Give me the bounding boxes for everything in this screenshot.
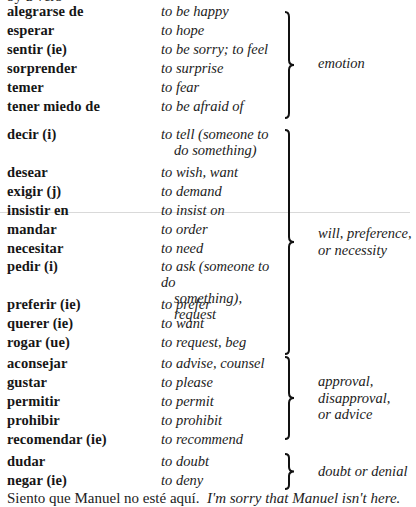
label-line: approval,	[318, 373, 390, 390]
label-line: will, preference,	[318, 225, 412, 242]
gloss-line: to ask (someone to do	[161, 258, 269, 290]
verb: desear	[7, 164, 48, 181]
table-row: desear to wish, want	[0, 164, 410, 183]
verb: gustar	[7, 374, 47, 391]
table-row: rogar (ue) to request, beg	[0, 334, 410, 353]
label-line: or necessity	[318, 242, 412, 259]
table-row: temer to fear	[0, 79, 410, 98]
gloss: to tell (someone todo something)	[161, 126, 286, 158]
group-label-will: will, preference, or necessity	[318, 225, 412, 258]
group-label-doubt: doubt or denial	[318, 463, 407, 480]
verb: esperar	[7, 22, 54, 39]
gloss: to prohibit	[161, 412, 286, 428]
gloss-continuation: do something)	[161, 142, 286, 158]
table-row: preferir (ie) to prefer	[0, 296, 410, 315]
table-row: insistir en to insist on	[0, 202, 410, 221]
gloss: to need	[161, 240, 286, 256]
table-row: alegrarse de to be happy	[0, 3, 410, 22]
verb: mandar	[7, 221, 57, 238]
verb: permitir	[7, 393, 60, 410]
table-row: esperar to hope	[0, 22, 410, 41]
verb: preferir (ie)	[7, 296, 81, 313]
verb: sorprender	[7, 60, 77, 77]
gloss: to be afraid of	[161, 98, 286, 114]
gloss-line: to tell (someone to	[161, 126, 269, 142]
table-row: tener miedo de to be afraid of	[0, 98, 410, 117]
verb: temer	[7, 79, 44, 96]
gloss: to recommend	[161, 431, 286, 447]
table-row: pedir (i) to ask (someone to dosomething…	[0, 258, 410, 296]
table-row: aconsejar to advise, counsel	[0, 355, 410, 374]
example-sentence: Siento que Manuel no esté aquí. I'm sorr…	[7, 490, 416, 507]
verb: negar (ie)	[7, 472, 67, 489]
brace-emotion	[284, 11, 296, 119]
verb: recomendar (ie)	[7, 431, 107, 448]
brace-will	[284, 129, 296, 355]
example-english: I'm sorry that Manuel isn't here.	[207, 490, 400, 507]
gloss: to be sorry; to feel	[161, 41, 286, 57]
verb: decir (i)	[7, 126, 56, 143]
verb: tener miedo de	[7, 98, 100, 115]
group-label-approval: approval, disapproval, or advice	[318, 373, 390, 423]
gloss: to permit	[161, 393, 286, 409]
gloss: to prefer	[161, 296, 286, 312]
gloss: to advise, counsel	[161, 355, 286, 371]
table-row: exigir (j) to demand	[0, 183, 410, 202]
verb: sentir (ie)	[7, 41, 67, 58]
gloss: to want	[161, 315, 286, 331]
verb: alegrarse de	[7, 3, 84, 20]
table-row: querer (ie) to want	[0, 315, 410, 334]
verb: rogar (ue)	[7, 334, 70, 351]
gloss: to request, beg	[161, 334, 286, 350]
gloss: to demand	[161, 183, 286, 199]
verb: aconsejar	[7, 355, 68, 372]
gloss: to order	[161, 221, 286, 237]
gloss: to surprise	[161, 60, 286, 76]
verb: querer (ie)	[7, 315, 73, 332]
gloss: to please	[161, 374, 286, 390]
gloss: to fear	[161, 79, 286, 95]
verb: exigir (j)	[7, 183, 61, 200]
brace-approval	[284, 356, 296, 440]
label-line: or advice	[318, 406, 390, 423]
gloss: to wish, want	[161, 164, 286, 180]
label-line: disapproval,	[318, 390, 390, 407]
gloss: to doubt	[161, 453, 286, 469]
verb: prohibir	[7, 412, 60, 429]
table-row: recomendar (ie) to recommend	[0, 431, 410, 450]
example-spanish: Siento que Manuel no esté aquí.	[7, 490, 199, 506]
gloss: to hope	[161, 22, 286, 38]
verb: pedir (i)	[7, 258, 58, 275]
table-row: decir (i) to tell (someone todo somethin…	[0, 126, 410, 164]
group-label-emotion: emotion	[318, 55, 365, 72]
brace-doubt	[284, 453, 296, 490]
gloss: to deny	[161, 472, 286, 488]
gloss: to insist on	[161, 202, 286, 218]
verb: insistir en	[7, 202, 69, 219]
verb: dudar	[7, 453, 45, 470]
verb: necesitar	[7, 240, 63, 257]
gloss: to be happy	[161, 3, 286, 19]
